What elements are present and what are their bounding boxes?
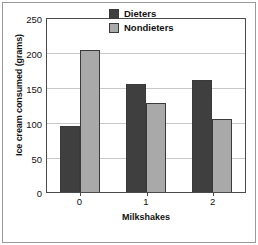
y-tick-50: 50 <box>16 154 42 165</box>
plot-area <box>46 18 246 193</box>
legend-item-nondieters[interactable]: Nondieters <box>109 22 174 33</box>
bar-group-1 <box>126 19 166 192</box>
y-tick-200: 200 <box>16 49 42 60</box>
bar-nondieters-1[interactable] <box>146 103 166 192</box>
bar-nondieters-2[interactable] <box>212 119 232 192</box>
bar-dieters-1[interactable] <box>126 84 146 192</box>
x-tick-0: 0 <box>64 196 94 210</box>
x-tick-2: 2 <box>198 196 228 210</box>
legend-label-dieters: Dieters <box>124 8 156 19</box>
x-axis-label: Milkshakes <box>46 212 246 222</box>
y-tick-150: 150 <box>16 84 42 95</box>
legend-label-nondieters: Nondieters <box>124 22 174 33</box>
bar-nondieters-0[interactable] <box>80 50 100 192</box>
bar-group-2 <box>192 19 232 192</box>
plot-inner <box>47 19 245 192</box>
x-tick-1: 1 <box>131 196 161 210</box>
bar-group-0 <box>60 19 100 192</box>
y-axis-tick-labels: 250 200 150 100 50 0 <box>14 0 42 245</box>
bar-groups <box>47 19 245 192</box>
legend-swatch-nondieters <box>109 23 119 33</box>
y-tick-250: 250 <box>16 14 42 25</box>
chart-legend: Dieters Nondieters <box>106 6 177 35</box>
y-tick-0: 0 <box>16 188 42 199</box>
legend-swatch-dieters <box>109 9 119 19</box>
bar-dieters-0[interactable] <box>60 126 80 192</box>
y-tick-100: 100 <box>16 119 42 130</box>
bar-dieters-2[interactable] <box>192 80 212 192</box>
legend-item-dieters[interactable]: Dieters <box>109 8 174 19</box>
bar-chart-figure: Ice cream consumed (grams) 250 200 150 1… <box>0 0 258 245</box>
x-axis-tick-labels: 0 1 2 <box>46 196 246 210</box>
